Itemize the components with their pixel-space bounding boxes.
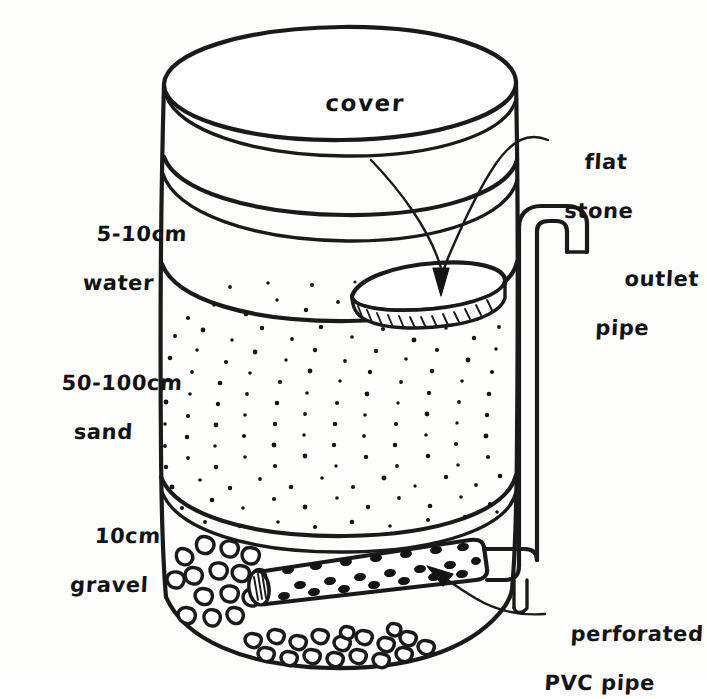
label-water-layer: 5-10cm water	[59, 198, 179, 344]
label-gravel-layer: 10cm gravel	[40, 500, 180, 646]
label-pvc-line1: perforated	[570, 622, 704, 646]
label-water-line2: water	[62, 271, 175, 295]
label-perforated-pvc-pipe: perforated PVC pipe	[533, 598, 705, 699]
label-flat-stone-line2: stone	[564, 199, 634, 223]
pvc-leader-line	[449, 581, 545, 614]
label-water-line1: 5-10cm	[96, 222, 188, 246]
label-gravel-line1: 10cm	[94, 524, 161, 548]
label-sand-line1: 50-100cm	[61, 371, 183, 395]
flat-stone	[352, 262, 505, 328]
label-cover: cover	[285, 63, 407, 143]
label-gravel-line2: gravel	[43, 573, 176, 597]
label-pvc-line2: PVC pipe	[544, 671, 702, 695]
sand-bottom-boundary	[161, 475, 516, 536]
label-outlet-pipe: outlet pipe	[587, 243, 701, 389]
label-sand-line2: sand	[27, 420, 180, 444]
label-flat-stone-line1: flat	[584, 150, 628, 174]
label-cover-text: cover	[325, 90, 406, 116]
outlet-pipe-bottom-inner	[484, 549, 537, 560]
label-outlet-pipe-line2: pipe	[595, 316, 697, 340]
label-outlet-pipe-line1: outlet	[624, 267, 700, 291]
water-surface-rim-lower	[163, 174, 517, 241]
water-surface-rim	[164, 157, 517, 215]
label-sand-layer: 50-100cm sand	[24, 347, 184, 493]
